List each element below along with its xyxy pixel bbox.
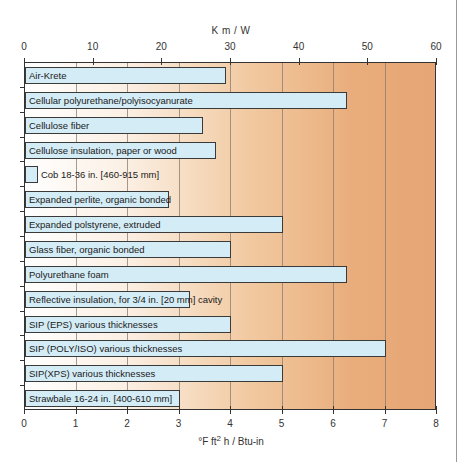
y-tick-mark (20, 286, 24, 287)
bottom-tick-label: 3 (176, 418, 182, 429)
bottom-tick-mark (127, 406, 128, 414)
top-tick-label: 10 (87, 41, 98, 52)
bottom-tick-mark (230, 406, 231, 414)
bar-label: Expanded perlite, organic bonded (29, 191, 171, 208)
bottom-tick-mark (76, 406, 77, 414)
y-tick-mark (20, 261, 24, 262)
top-tick-mark (299, 58, 300, 65)
bottom-tick-label: 1 (73, 418, 79, 429)
top-axis-title: K m / W (0, 25, 462, 36)
bottom-tick-mark (385, 406, 386, 414)
bottom-tick-mark (282, 406, 283, 414)
bottom-axis-title-suffix: h / Btu-in (221, 436, 264, 447)
bottom-tick-label: 7 (382, 418, 388, 429)
y-tick-mark (20, 311, 24, 312)
bottom-axis-title-prefix: °F ft (198, 436, 216, 447)
top-tick-label: 30 (224, 41, 235, 52)
bottom-tick-label: 4 (227, 418, 233, 429)
top-tick-label: 60 (430, 41, 441, 52)
top-tick-mark (230, 58, 231, 65)
bar-label: Cellulose insulation, paper or wood (29, 142, 177, 159)
bar-label: Polyurethane foam (29, 266, 109, 283)
top-tick-label: 40 (293, 41, 304, 52)
bar-label: Glass fiber, organic bonded (29, 241, 145, 258)
y-tick-mark (20, 112, 24, 113)
bottom-axis-title: °F ft2 h / Btu-in (0, 434, 462, 447)
bar-label: SIP(XPS) various thicknesses (29, 365, 155, 382)
bottom-tick-mark (333, 406, 334, 414)
top-tick-label: 50 (362, 41, 373, 52)
bottom-tick-label: 8 (433, 418, 439, 429)
top-tick-mark (436, 58, 437, 65)
bar-label: Cellulose fiber (29, 117, 89, 134)
page-divider (456, 0, 457, 462)
bottom-tick-mark (179, 406, 180, 414)
bar (25, 166, 38, 183)
plot-area: Air-KreteCellular polyurethane/polyisocy… (24, 62, 436, 410)
top-axis-title-text: K m / W (211, 25, 250, 36)
bottom-tick-label: 2 (124, 418, 130, 429)
bar-label: Air-Krete (29, 67, 66, 84)
y-tick-mark (20, 87, 24, 88)
bottom-tick-label: 0 (21, 418, 27, 429)
y-tick-mark (20, 335, 24, 336)
bottom-tick-mark (24, 406, 25, 414)
y-tick-mark (20, 186, 24, 187)
bottom-tick-label: 6 (330, 418, 336, 429)
bar-label: Strawbale 16-24 in. [400-610 mm] (29, 390, 172, 407)
bar-label: Expanded polstyrene, extruded (29, 216, 161, 233)
bar-label: Reflective insulation, for 3/4 in. [20 m… (29, 291, 222, 308)
top-tick-label: 0 (21, 41, 27, 52)
top-tick-mark (24, 58, 25, 65)
top-tick-label: 20 (156, 41, 167, 52)
y-tick-mark (20, 211, 24, 212)
y-tick-mark (20, 161, 24, 162)
y-tick-mark (20, 137, 24, 138)
bottom-tick-mark (436, 406, 437, 414)
bar-label: Cob 18-36 in. [460-915 mm] (41, 166, 159, 183)
top-tick-mark (161, 58, 162, 65)
y-tick-mark (20, 236, 24, 237)
bottom-tick-label: 5 (279, 418, 285, 429)
bar-label: SIP (POLY/ISO) various thicknesses (29, 340, 182, 357)
top-tick-mark (367, 58, 368, 65)
bar-label: SIP (EPS) various thicknesses (29, 316, 158, 333)
top-tick-mark (93, 58, 94, 65)
y-tick-mark (20, 360, 24, 361)
y-tick-mark (20, 385, 24, 386)
bar-label: Cellular polyurethane/polyisocyanurate (29, 92, 193, 109)
